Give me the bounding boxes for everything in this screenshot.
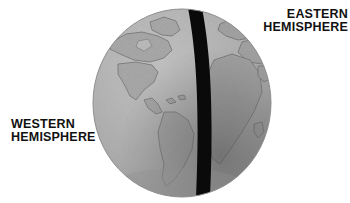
earth-globe	[92, 8, 272, 198]
globe-graphic	[92, 8, 272, 198]
diagram-canvas: EASTERN HEMISPHERE WESTERN HEMISPHERE	[0, 0, 350, 203]
label-western-hemisphere: WESTERN HEMISPHERE	[11, 118, 96, 144]
label-western-line2: HEMISPHERE	[11, 131, 96, 144]
label-eastern-line2: HEMISPHERE	[263, 21, 348, 34]
label-eastern-hemisphere: EASTERN HEMISPHERE	[263, 8, 348, 34]
